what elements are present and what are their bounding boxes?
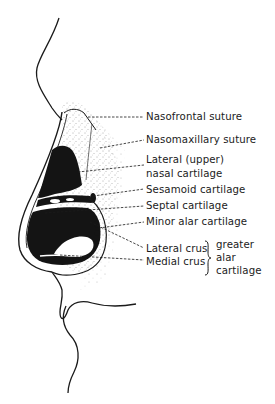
nose-anatomy-diagram	[0, 0, 275, 404]
minor-alar-nodule	[95, 230, 100, 236]
label-minor-alar-cartilage: Minor alar cartilage	[146, 216, 247, 228]
label-greater-alar-line3: cartilage	[216, 265, 262, 277]
minor-alar-nodule	[95, 220, 100, 228]
label-nasofrontal-suture: Nasofrontal suture	[146, 111, 242, 123]
label-lateral-crus: Lateral crus	[146, 243, 207, 255]
forehead-profile-line	[36, 18, 62, 120]
label-greater-alar-line1: greater	[216, 239, 254, 251]
label-lateral-upper-line2: nasal cartilage	[146, 168, 222, 180]
label-greater-alar-line2: alar	[216, 252, 236, 264]
label-sesamoid-cartilage: Sesamoid cartilage	[146, 184, 245, 196]
label-lateral-upper-line1: Lateral (upper)	[146, 154, 224, 166]
label-medial-crus: Medial crus	[146, 256, 205, 268]
sesamoid-nodule	[66, 198, 74, 201]
label-septal-cartilage: Septal cartilage	[146, 200, 228, 212]
sesamoid-nodule	[50, 199, 60, 203]
label-nasomaxillary-suture: Nasomaxillary suture	[146, 134, 256, 146]
greater-alar-cartilage	[27, 207, 101, 265]
group-brace-icon	[204, 240, 212, 276]
lower-lip-profile	[63, 306, 78, 393]
